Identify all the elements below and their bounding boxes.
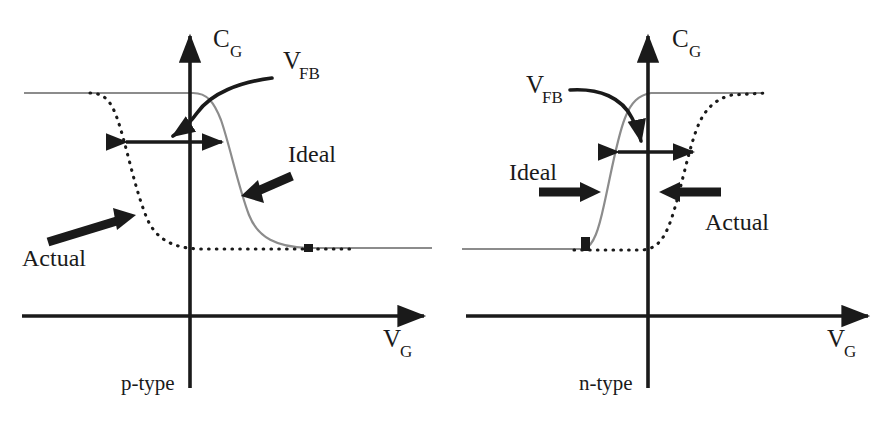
ideal-callout-n-type: Ideal bbox=[509, 159, 601, 202]
panel-caption-n-type: n-type bbox=[579, 371, 633, 395]
n-type-plot: C G V G V FB Ideal bbox=[444, 0, 889, 427]
flatband-label-sub-n-type: FB bbox=[542, 88, 563, 107]
x-axis-label-p-type: V bbox=[383, 325, 401, 352]
panel-n-type: C G V G V FB Ideal bbox=[444, 0, 889, 427]
y-axis-label-sub-p-type: G bbox=[230, 42, 242, 61]
panel-p-type: C G V G V FB Ideal bbox=[0, 0, 445, 427]
actual-callout-p-type: Actual bbox=[22, 208, 136, 271]
y-axis-label-sub-n-type: G bbox=[689, 42, 701, 61]
x-axis-label-n-type: V bbox=[827, 325, 845, 352]
y-axis-label-n-type: C bbox=[672, 25, 689, 52]
flatband-label-sub-p-type: FB bbox=[299, 64, 320, 83]
y-axis-label-p-type: C bbox=[213, 25, 230, 52]
flatband-annotation-n-type: V FB bbox=[526, 71, 641, 141]
x-axis-label-sub-n-type: G bbox=[844, 342, 856, 361]
ideal-callout-p-type: Ideal bbox=[241, 141, 336, 203]
actual-curve-p-type bbox=[90, 93, 355, 249]
p-type-plot: C G V G V FB Ideal bbox=[0, 0, 445, 427]
axes-p-type bbox=[22, 36, 424, 388]
ideal-label-n-type: Ideal bbox=[509, 159, 557, 185]
cv-characteristics-figure: C G V G V FB Ideal bbox=[0, 0, 889, 427]
x-axis-label-sub-p-type: G bbox=[400, 342, 412, 361]
actual-label-p-type: Actual bbox=[22, 245, 86, 271]
ideal-label-p-type: Ideal bbox=[288, 141, 336, 167]
panel-caption-p-type: p-type bbox=[121, 371, 175, 395]
flatband-annotation-p-type: V FB bbox=[173, 47, 320, 136]
actual-label-n-type: Actual bbox=[705, 209, 769, 235]
